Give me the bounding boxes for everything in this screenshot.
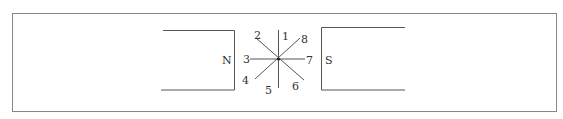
direction-label-7: 7 — [306, 54, 313, 67]
pole-label-s: S — [325, 54, 333, 67]
direction-label-8: 8 — [301, 33, 308, 46]
magnet-diagram: N S 1 2 3 4 5 6 7 8 — [0, 0, 563, 119]
direction-label-6: 6 — [292, 80, 299, 93]
compass-center-dot — [277, 57, 280, 60]
direction-label-3: 3 — [243, 53, 250, 66]
direction-label-2: 2 — [254, 29, 261, 42]
pole-label-n: N — [222, 54, 232, 67]
direction-label-1: 1 — [282, 30, 289, 43]
direction-label-5: 5 — [265, 84, 272, 97]
direction-label-4: 4 — [242, 74, 249, 87]
right-magnet — [322, 28, 406, 91]
